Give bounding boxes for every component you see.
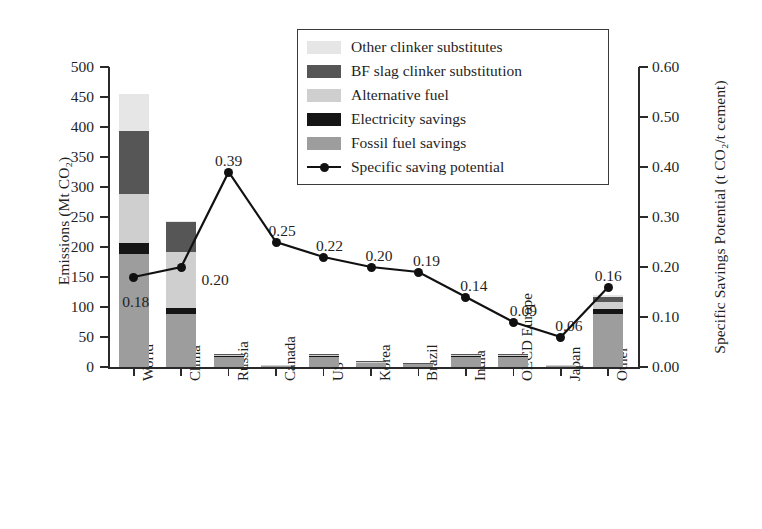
legend-item-label: Alternative fuel — [351, 86, 449, 104]
legend-swatch-icon — [307, 113, 341, 126]
legend-item-label: Fossil fuel savings — [351, 134, 466, 152]
legend-item-label: Specific saving potential — [351, 158, 504, 176]
legend-item[interactable]: Other clinker substitutes — [298, 35, 608, 59]
legend-line-marker-icon — [307, 161, 341, 174]
legend-swatch-icon — [307, 41, 341, 54]
legend-item[interactable]: Fossil fuel savings — [298, 131, 608, 155]
legend-item[interactable]: Specific saving potential — [298, 155, 608, 179]
legend-item-label: BF slag clinker substitution — [351, 62, 522, 80]
legend-item-label: Other clinker substitutes — [351, 38, 503, 56]
legend-swatch-icon — [307, 89, 341, 102]
legend-swatch-icon — [307, 137, 341, 150]
chart-container: Emissions (Mt CO₂) Specific Savings Pote… — [0, 0, 762, 529]
legend-item[interactable]: Electricity savings — [298, 107, 608, 131]
chart-legend: Other clinker substitutesBF slag clinker… — [297, 29, 609, 185]
legend-item[interactable]: BF slag clinker substitution — [298, 59, 608, 83]
legend-item[interactable]: Alternative fuel — [298, 83, 608, 107]
legend-swatch-icon — [307, 65, 341, 78]
legend-item-label: Electricity savings — [351, 110, 466, 128]
line-path — [134, 172, 609, 337]
